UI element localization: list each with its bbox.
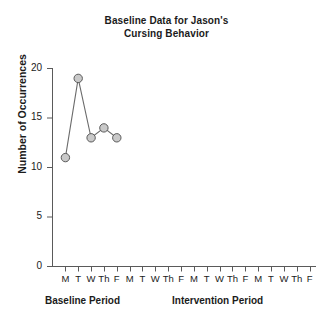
x-axis-ticks <box>66 267 311 272</box>
y-tick-label-5: 5 <box>18 210 42 221</box>
x-tick-label-19: F <box>301 273 319 284</box>
data-point-3 <box>100 124 108 132</box>
y-tick-label-15: 15 <box>18 111 42 122</box>
data-series-markers <box>61 74 121 162</box>
y-tick-label-10: 10 <box>18 161 42 172</box>
data-series-line <box>65 78 116 157</box>
y-tick-label-20: 20 <box>18 62 42 73</box>
y-tick-label-0: 0 <box>18 260 42 271</box>
y-axis-ticks <box>47 69 53 267</box>
data-point-1 <box>74 74 82 82</box>
phase-label-baseline: Baseline Period <box>45 295 120 306</box>
data-point-0 <box>61 153 69 161</box>
phase-label-intervention: Intervention Period <box>172 295 263 306</box>
data-point-2 <box>87 134 95 142</box>
line-chart-figure: Baseline Data for Jason's Cursing Behavi… <box>0 0 333 323</box>
data-point-4 <box>113 134 121 142</box>
